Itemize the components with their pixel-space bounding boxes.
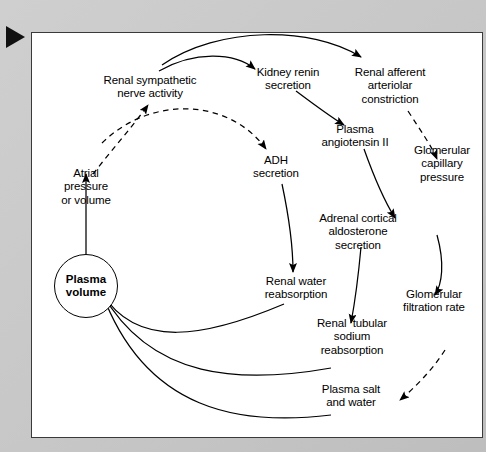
edge-renin-angiotensin bbox=[296, 91, 344, 125]
node-adrenal-cortical[interactable]: Adrenal cortical aldosterone secretion bbox=[297, 212, 419, 252]
edge-gcp-gfr bbox=[435, 235, 442, 295]
edge-atrial-rsna bbox=[93, 105, 148, 174]
node-adh[interactable]: ADH secretion bbox=[236, 154, 316, 181]
play-triangle-icon bbox=[6, 26, 25, 48]
edge-plasmasalt-plasmavolume bbox=[102, 293, 331, 418]
node-renal-afferent[interactable]: Renal afferent arteriolar constriction bbox=[338, 66, 442, 106]
edge-rsna-renal-afferent bbox=[162, 35, 361, 65]
edge-adh-renalwater bbox=[282, 184, 293, 272]
paper-edge-right bbox=[486, 0, 504, 466]
node-renal-tubular[interactable]: Renal tubular sodium reabsorption bbox=[299, 317, 405, 357]
edge-gfr-plasmasalt bbox=[400, 350, 445, 400]
node-glomerular-capillary[interactable]: Glomerular capillary pressure bbox=[396, 144, 488, 184]
node-plasma-angiotensin[interactable]: Plasma angiotensin II bbox=[307, 123, 403, 150]
edge-atrial-adh bbox=[102, 109, 266, 149]
figure-stage: Renal sympathetic nerve activity Kidney … bbox=[0, 0, 504, 466]
node-glomerular-filtration[interactable]: Glomerular filtration rate bbox=[386, 288, 482, 315]
edge-renaltubular-plasmavolume bbox=[102, 293, 331, 375]
node-kidney-renin[interactable]: Kidney renin secretion bbox=[238, 66, 338, 93]
paper-edge-bottom bbox=[0, 452, 504, 466]
node-atrial-pressure[interactable]: Atrial pressure or volume bbox=[46, 167, 126, 207]
node-renal-water[interactable]: Renal water reabsorption bbox=[244, 275, 348, 302]
edge-adrenal-renaltubular bbox=[351, 247, 361, 323]
edge-angiotensin-adrenal bbox=[364, 149, 395, 218]
node-renal-sympathetic[interactable]: Renal sympathetic nerve activity bbox=[80, 74, 220, 101]
node-plasma-salt[interactable]: Plasma salt and water bbox=[301, 383, 401, 410]
node-plasma-volume[interactable]: Plasma volume bbox=[54, 254, 118, 318]
